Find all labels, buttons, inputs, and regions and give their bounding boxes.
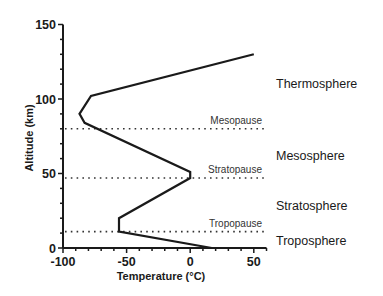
boundary-label-mesopause: Mesopause: [210, 115, 262, 126]
y-tick-label: 50: [42, 167, 56, 181]
x-axis-title: Temperature (°C): [117, 270, 206, 282]
y-tick-label: 150: [35, 18, 56, 32]
x-tick-label: -50: [118, 255, 136, 269]
x-tick-label: 0: [187, 255, 194, 269]
axes: -100-50050050100150: [35, 18, 266, 269]
y-tick-label: 0: [49, 242, 56, 256]
atmosphere-temperature-chart: -100-50050050100150 TropopauseStratopaus…: [0, 0, 383, 296]
boundary-lines: TropopauseStratopauseMesopause: [65, 115, 265, 232]
x-tick-label: -100: [50, 255, 75, 269]
layer-label-thermosphere: Thermosphere: [276, 77, 357, 91]
layer-labels: TroposphereStratosphereMesosphereThermos…: [276, 77, 357, 247]
layer-label-stratosphere: Stratosphere: [276, 199, 348, 213]
boundary-label-tropopause: Tropopause: [209, 218, 262, 229]
layer-label-troposphere: Troposphere: [276, 234, 346, 248]
boundary-label-stratopause: Stratopause: [208, 164, 262, 175]
y-axis-title: Altitude (km): [23, 104, 35, 172]
layer-label-mesosphere: Mesosphere: [276, 149, 345, 163]
y-tick-label: 100: [35, 93, 56, 107]
x-tick-label: 50: [247, 255, 261, 269]
